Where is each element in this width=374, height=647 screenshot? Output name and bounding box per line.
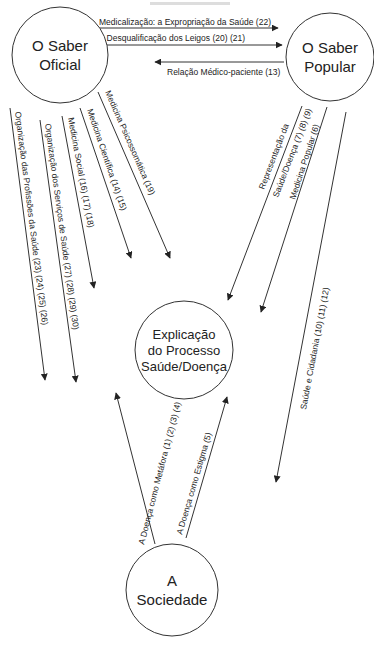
- edge-label-medicalizacao: Medicalização: a Expropriação da Saúde (…: [99, 17, 271, 27]
- edge-medicalizacao: Medicalização: a Expropriação da Saúde (…: [98, 17, 278, 28]
- node-label-saber-popular-1: O Saber: [302, 39, 358, 56]
- concept-diagram: Medicalização: a Expropriação da Saúde (…: [0, 0, 374, 647]
- node-explicacao: Explicação do Processo Saúde/Doença: [135, 301, 233, 399]
- node-label-saber-popular-2: Popular: [304, 58, 356, 75]
- node-sociedade: A Sociedade: [126, 544, 218, 636]
- node-label-explicacao-3: Saúde/Doença: [141, 359, 228, 374]
- node-label-saber-oficial-1: O Saber: [32, 37, 88, 54]
- edge-label-desqualificacao: A Desqualificação dos Leigos (20) (21): [99, 33, 245, 43]
- node-label-saber-oficial-2: Oficial: [39, 56, 81, 73]
- circle-saber-popular: [286, 13, 374, 101]
- arrow-representacao: [228, 106, 302, 300]
- node-saber-popular: O Saber Popular: [286, 13, 374, 101]
- edge-label-metafora: A Doença como Metáfora (1) (2) (3) (4): [136, 401, 183, 546]
- edge-relacao-medico: Relação Médico-paciente (13): [155, 62, 284, 77]
- node-label-explicacao-1: Explicação: [153, 327, 216, 342]
- title-fragment: [150, 2, 230, 5]
- edge-label-estigma: A Doença como Estigma (5): [174, 431, 213, 536]
- circle-sociedade: [126, 544, 218, 636]
- edge-desqualificacao: A Desqualificação dos Leigos (20) (21): [98, 33, 282, 45]
- edge-label-saude-cidadania: Saúde e Cidadania (10) (11) (12): [298, 286, 331, 410]
- node-saber-oficial: O Saber Oficial: [12, 7, 108, 103]
- node-label-explicacao-2: do Processo: [148, 343, 220, 358]
- edge-representacao: Representação da Saúde/Doença (7) (8) (9…: [228, 106, 314, 300]
- arrow-estigma: [186, 397, 227, 538]
- edge-label-relacao-medico: Relação Médico-paciente (13): [167, 67, 281, 77]
- edge-estigma: A Doença como Estigma (5): [174, 397, 227, 538]
- edge-label-medicina-social: Medicina Social (16) (17) (18): [66, 117, 96, 229]
- circle-saber-oficial: [12, 7, 108, 103]
- node-label-sociedade-1: A: [167, 572, 177, 589]
- node-label-sociedade-2: Sociedade: [137, 591, 208, 608]
- edge-label-org-profissoes: Organização das Profissões da Saúde (23)…: [13, 111, 50, 326]
- edge-metafora: A Doença como Metáfora (1) (2) (3) (4): [116, 393, 183, 546]
